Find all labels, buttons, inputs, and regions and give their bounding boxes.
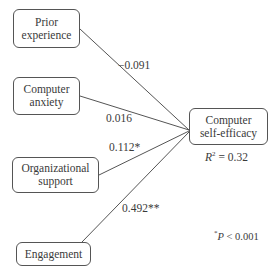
node-label: Engagement bbox=[25, 248, 82, 261]
node-label: Computer bbox=[24, 83, 70, 96]
node-label: experience bbox=[22, 29, 72, 42]
node-computer-anxiety: Computeranxiety bbox=[13, 77, 80, 115]
footnote-text: < 0.001 bbox=[224, 231, 259, 242]
node-engagement: Engagement bbox=[16, 242, 91, 266]
coef-engagement: 0.492** bbox=[122, 202, 159, 214]
coef-anxiety: 0.016 bbox=[106, 112, 132, 124]
node-label: anxiety bbox=[24, 96, 70, 109]
r-symbol: R bbox=[205, 151, 212, 163]
coef-prior: −0.091 bbox=[118, 59, 150, 71]
r-squared: R2 = 0.32 bbox=[205, 150, 248, 163]
node-prior-experience: Priorexperience bbox=[13, 9, 80, 48]
node-label: Organizational bbox=[21, 162, 89, 175]
node-label: support bbox=[21, 175, 89, 188]
r-value: = 0.32 bbox=[216, 151, 248, 163]
node-label: Prior bbox=[22, 16, 72, 29]
node-label: Computer bbox=[200, 114, 257, 127]
node-organizational-support: Organizationalsupport bbox=[12, 157, 99, 193]
node-label: self-efficacy bbox=[200, 127, 257, 140]
coef-org: 0.112* bbox=[109, 141, 140, 153]
node-computer-self-efficacy: Computerself-efficacy bbox=[189, 108, 268, 145]
footnote: *P < 0.001 bbox=[214, 229, 259, 242]
